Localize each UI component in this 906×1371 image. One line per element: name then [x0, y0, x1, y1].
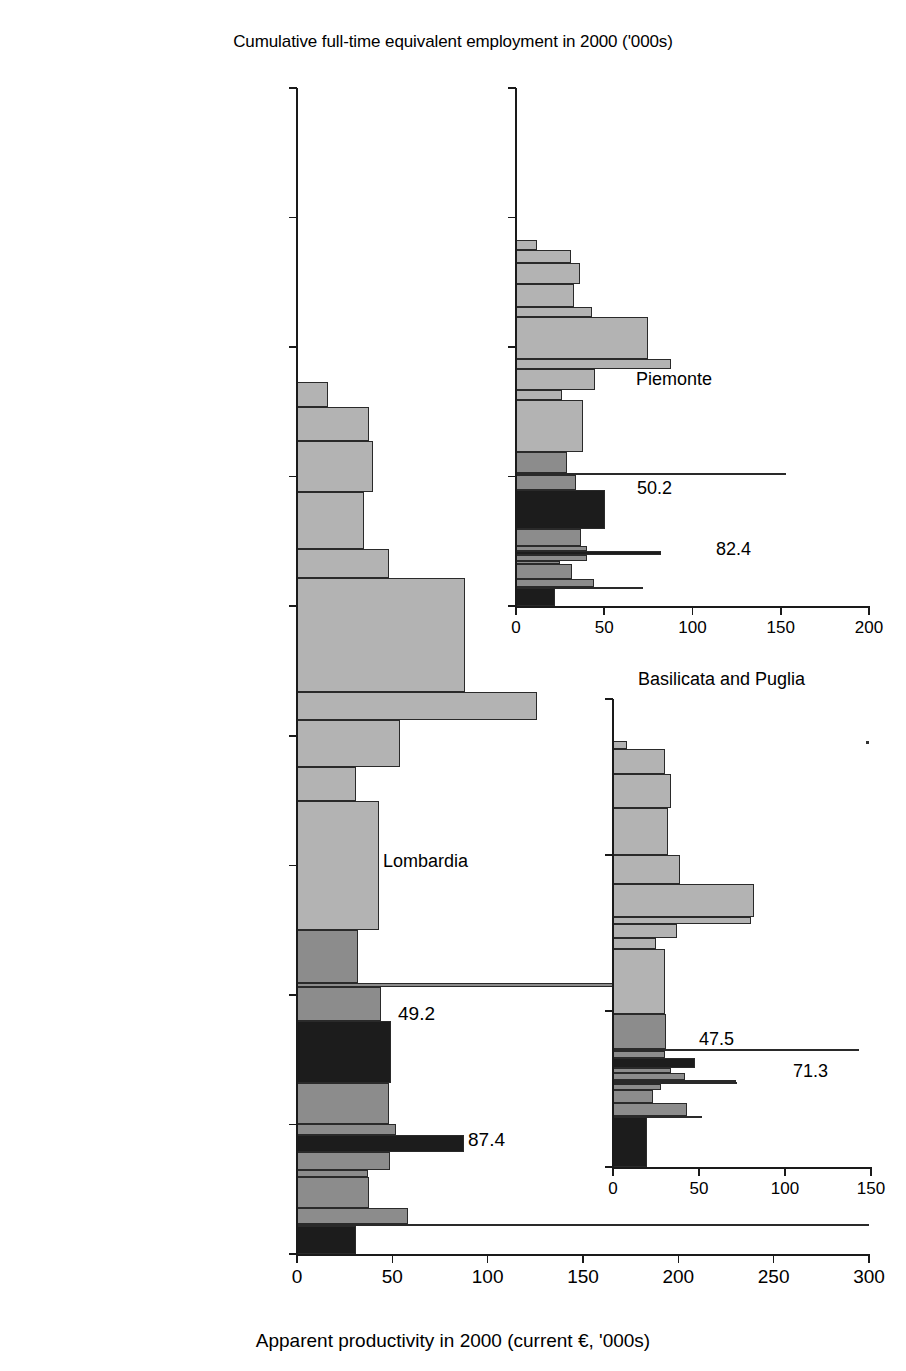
- basilicata-bar-chemicals: [613, 1080, 736, 1082]
- piemonte-x-tick: [780, 606, 782, 615]
- basilicata-bar-trade-repairs: [613, 949, 665, 1015]
- lombardia-bar-chemicals: [297, 1135, 464, 1152]
- lombardia-bar-hotels-restaurants: [297, 767, 356, 801]
- piemonte-bar-other-community-services: [516, 250, 571, 263]
- main-y-tick: [289, 994, 297, 996]
- main-x-tick-label: 300: [829, 1266, 906, 1288]
- basilicata-bar-transport: [613, 924, 677, 938]
- lombardia-bar-paper: [297, 1152, 390, 1170]
- main-x-tick: [678, 1254, 680, 1263]
- lombardia-bar-public-administration: [297, 549, 389, 578]
- piemonte-y-tick: [508, 476, 516, 478]
- lombardia-bar-agriculture: [297, 1226, 356, 1254]
- piemonte-x-tick-label: 100: [653, 618, 733, 638]
- lombardia-bar-nonmetallic-minerals: [297, 1124, 396, 1134]
- basilicata-x-tick-label: 150: [831, 1179, 906, 1199]
- piemonte-x-tick: [603, 606, 605, 615]
- piemonte-bar-real-estate: [516, 317, 648, 358]
- lombardia-bar-trade-repairs: [297, 801, 379, 931]
- basilicata-bar-hotels-restaurants: [613, 938, 656, 949]
- basilicata-bar-other-community-services: [613, 749, 665, 774]
- lombardia-bar-mining-quarrying: [297, 1224, 869, 1226]
- lombardia-bar-other-community-services: [297, 407, 369, 441]
- basilicata-bar-health: [613, 774, 671, 808]
- piemonte-x-tick-label: 0: [476, 618, 556, 638]
- main-x-tick: [487, 1254, 489, 1263]
- basilicata-x-tick: [870, 1167, 872, 1176]
- main-y-tick: [289, 87, 297, 89]
- piemonte-x-tick: [515, 606, 517, 615]
- basilicata-bar-leather: [613, 1084, 661, 1090]
- lombardia-bar-construction: [297, 930, 358, 983]
- annotation-equipment-main: 49.2: [398, 1003, 435, 1025]
- basilicata-bar-nonmetallic-minerals: [613, 1073, 685, 1080]
- piemonte-y-tick: [508, 217, 516, 219]
- basilicata-x-tick: [698, 1167, 700, 1176]
- basilicata-bar-domestic: [613, 741, 627, 749]
- basilicata-bar-finance: [613, 917, 751, 924]
- piemonte-bar-hotels-restaurants: [516, 390, 562, 400]
- main-x-tick: [392, 1254, 394, 1263]
- panel-basilicata-puglia: [613, 699, 871, 1167]
- main-y-tick: [289, 1124, 297, 1126]
- main-y-axis-spine: [296, 88, 298, 1254]
- piemonte-x-tick: [692, 606, 694, 615]
- basilicata-bar-wood-plastics: [613, 1051, 665, 1058]
- piemonte-x-tick-label: 50: [564, 618, 644, 638]
- main-x-tick: [296, 1254, 298, 1263]
- main-x-tick-label: 100: [448, 1266, 528, 1288]
- annotation-equipment-piemonte: 50.2: [637, 478, 672, 499]
- piemonte-x-tick-label: 150: [741, 618, 821, 638]
- main-y-tick: [289, 605, 297, 607]
- panel-name-piemonte: Piemonte: [636, 369, 712, 390]
- main-y-tick: [289, 217, 297, 219]
- piemonte-bar-electricity-gas-water: [516, 473, 786, 475]
- basilicata-x-tick: [784, 1167, 786, 1176]
- piemonte-bar-equipment: [516, 490, 605, 529]
- basilicata-bar-metals: [613, 1068, 671, 1074]
- piemonte-x-tick: [868, 606, 870, 615]
- lombardia-bar-metals: [297, 1083, 389, 1124]
- basilicata-bar-textiles: [613, 1090, 653, 1103]
- piemonte-x-tick-label: 200: [829, 618, 906, 638]
- basilicata-y-tick: [605, 1010, 613, 1012]
- piemonte-bar-construction: [516, 452, 567, 473]
- main-x-tick: [582, 1254, 584, 1263]
- lombardia-bar-textiles: [297, 1177, 369, 1208]
- main-y-tick: [289, 735, 297, 737]
- basilicata-bar-public-administration: [613, 855, 680, 885]
- piemonte-bar-agriculture: [516, 588, 555, 606]
- lombardia-bar-electricity-gas-water: [297, 983, 642, 987]
- piemonte-bar-trade-repairs: [516, 400, 583, 452]
- main-x-tick: [868, 1254, 870, 1263]
- basilicata-bar-agriculture: [613, 1117, 647, 1167]
- piemonte-y-tick: [508, 87, 516, 89]
- lombardia-bar-equipment: [297, 1021, 391, 1083]
- basilicata-bar-electricity-gas-water: [613, 1049, 859, 1051]
- main-x-tick-label: 0: [257, 1266, 337, 1288]
- piemonte-bar-chemicals: [516, 551, 661, 555]
- lombardia-bar-health: [297, 441, 373, 493]
- annotation-equipment-basilicata: 47.5: [699, 1029, 734, 1050]
- piemonte-bar-wood-plastics: [516, 475, 576, 491]
- panel-name-lombardia: Lombardia: [383, 851, 468, 872]
- annotation-chemicals-basilicata: 71.3: [793, 1061, 828, 1082]
- piemonte-bar-finance: [516, 359, 671, 369]
- main-x-tick-label: 200: [638, 1266, 718, 1288]
- main-x-tick: [773, 1254, 775, 1263]
- basilicata-x-tick-label: 100: [745, 1179, 825, 1199]
- basilicata-y-axis-spine: [612, 699, 614, 1167]
- piemonte-bar-education: [516, 284, 574, 307]
- piemonte-y-tick: [508, 346, 516, 348]
- main-x-tick-label: 150: [543, 1266, 623, 1288]
- lombardia-bar-domestic: [297, 382, 328, 407]
- scan-speck: [866, 741, 869, 744]
- figure-top-title: Cumulative full-time equivalent employme…: [0, 32, 906, 52]
- basilicata-bar-education: [613, 808, 668, 855]
- basilicata-x-axis-spine: [613, 1167, 871, 1169]
- main-x-tick-label: 50: [352, 1266, 432, 1288]
- basilicata-x-tick: [612, 1167, 614, 1176]
- piemonte-bar-food: [516, 579, 594, 587]
- lombardia-bar-wood-plastics: [297, 987, 381, 1021]
- piemonte-bar-leather: [516, 561, 560, 563]
